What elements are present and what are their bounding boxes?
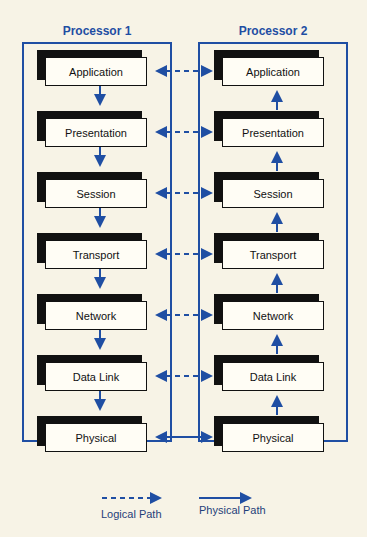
- legend-logical-path: Logical Path: [101, 508, 162, 520]
- legend-physical-path: Physical Path: [199, 504, 266, 516]
- arrows-overlay: [0, 0, 367, 537]
